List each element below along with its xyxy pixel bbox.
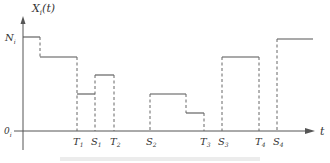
x-tick-T1: T1 — [73, 136, 84, 148]
x-tick-labels: T1S1T2S2T3S3T4S4 — [73, 136, 284, 148]
axes — [14, 16, 315, 150]
x-tick-S2: S2 — [146, 136, 157, 148]
x-tick-T4: T4 — [255, 136, 266, 148]
x-tick-S4: S4 — [273, 136, 284, 148]
y-axis-label: Xi(t) — [31, 2, 55, 17]
x-tick-S3: S3 — [218, 136, 229, 148]
step-function-diagram: Xi(t) t Ni 0i T1S1T2S2T3S3T4S4 — [0, 0, 330, 163]
y-axis-arrow-icon — [21, 16, 26, 24]
y-tick-0i: 0i — [4, 126, 12, 138]
x-tick-T3: T3 — [200, 136, 211, 148]
caption-placeholder — [60, 157, 260, 161]
x-axis-label: t — [320, 125, 325, 138]
step-segments — [23, 37, 313, 113]
x-tick-S1: S1 — [91, 136, 102, 148]
x-tick-T2: T2 — [110, 136, 121, 148]
y-tick-Ni: Ni — [4, 32, 16, 45]
x-axis-arrow-icon — [305, 128, 315, 134]
dashed-transitions — [40, 37, 277, 131]
